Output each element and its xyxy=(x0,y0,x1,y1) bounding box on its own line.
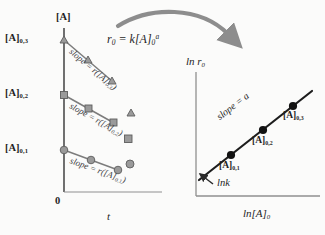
data-point-label-1: [A]0,1 xyxy=(219,161,240,172)
tick-label-a01: [A]0,1 xyxy=(5,143,28,154)
data-point-3 xyxy=(289,102,297,110)
data-point-2 xyxy=(259,126,267,134)
data-point-label-3: [A]0,3 xyxy=(283,111,304,122)
left-y-axis-label: [A] xyxy=(56,12,71,23)
tick-label-a03: [A]0,3 xyxy=(5,33,28,44)
legend-circle-icon xyxy=(126,160,134,168)
data-point-1 xyxy=(227,151,235,159)
legend-square-icon xyxy=(125,135,133,143)
data-point-label-2: [A]0,2 xyxy=(252,136,273,147)
intercept-label: lnk xyxy=(217,178,230,189)
left-x-axis-label: t xyxy=(107,211,110,222)
legend-triangle-icon xyxy=(127,109,135,116)
transition-arrow xyxy=(118,12,228,34)
figure-graphics xyxy=(0,0,325,235)
left-origin-label: 0 xyxy=(55,196,60,207)
stray-markers xyxy=(125,109,136,168)
tick-label-a02: [A]0,2 xyxy=(5,88,28,99)
right-x-axis-label: ln[A]0 xyxy=(243,208,270,221)
rate-equation: r0 = k[A]0a xyxy=(107,33,159,47)
kinetics-figure: [A] [A]0,3 [A]0,2 [A]0,1 0 t slope = r([… xyxy=(0,0,325,235)
right-y-axis-label: ln r0 xyxy=(186,56,205,69)
